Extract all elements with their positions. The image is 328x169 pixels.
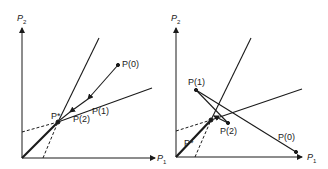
left-steep-line-dashed: [43, 122, 58, 158]
left-point-p0: [116, 63, 119, 66]
left-path-p0-p1: [88, 65, 118, 99]
right-shallow-line: [211, 89, 302, 120]
left-x-axis-label: P1: [157, 154, 166, 165]
right-label-p0: P(0): [278, 133, 295, 142]
left-optimal-ray: [22, 122, 58, 158]
right-x-axis-label-sub: 1: [313, 158, 316, 164]
left-y-axis-label: P2: [17, 14, 26, 25]
right-point-p1: [194, 88, 197, 91]
left-label-p0: P(0): [122, 60, 139, 69]
right-point-p0: [294, 150, 297, 153]
right-label-p2: P(2): [220, 127, 237, 136]
left-label-pstar: P*: [51, 112, 61, 121]
left-x-axis-label-sub: 1: [163, 159, 166, 165]
right-y-axis-label: P2: [171, 14, 180, 25]
right-x-axis-label: P1: [307, 153, 316, 164]
left-y-axis-label-sub: 2: [23, 19, 26, 25]
right-steep-line: [211, 38, 251, 120]
diagram-canvas: [0, 0, 328, 169]
right-label-p1: P(1): [188, 78, 205, 87]
left-label-p2: P(2): [73, 115, 90, 124]
left-panel: [22, 28, 155, 158]
right-label-pstar: P*: [184, 139, 194, 148]
right-y-axis-label-sub: 2: [177, 19, 180, 25]
left-label-p1: P(1): [92, 107, 109, 116]
right-point-p2: [226, 121, 229, 124]
right-point-pstar: [209, 118, 213, 122]
right-steep-line-dashed: [195, 120, 211, 157]
left-path-p1-p2: [70, 99, 88, 112]
